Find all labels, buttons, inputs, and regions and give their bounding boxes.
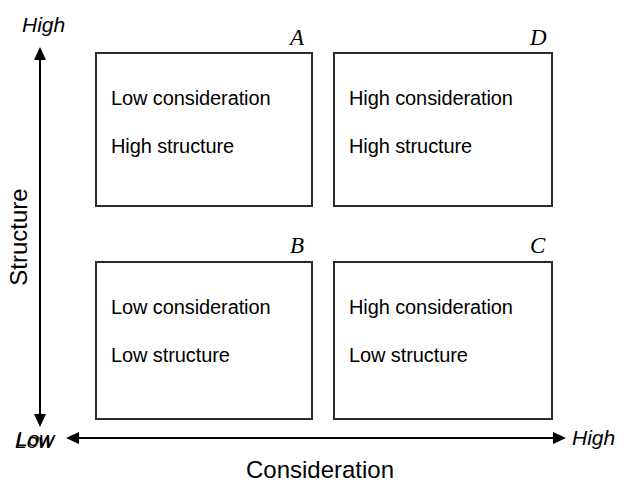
y-axis-high-label: High [22,14,65,35]
y-axis-title: Structure [7,172,31,302]
quadrant-c-line-2: Low structure [349,345,468,365]
diagram-canvas: High Low Structure Low High Consideratio… [0,0,636,489]
quadrant-b-line-1: Low consideration [111,297,271,317]
quadrant-d-line-1: High consideration [349,88,513,108]
quadrant-letter-d: D [530,26,547,49]
quadrant-d-line-2: High structure [349,136,472,156]
quadrant-a-line-2: High structure [111,136,234,156]
quadrant-a-line-1: Low consideration [111,88,271,108]
y-axis-down-arrowhead [34,414,46,427]
quadrant-letter-c: C [530,234,545,257]
x-axis-high-label: High [572,427,615,448]
quadrant-box-d[interactable]: High consideration High structure [333,52,553,207]
quadrant-letter-b: B [290,234,304,257]
quadrant-b-line-2: Low structure [111,345,230,365]
quadrant-c-line-1: High consideration [349,297,513,317]
x-axis-right-arrowhead [553,432,566,444]
x-axis-title: Consideration [205,458,435,482]
y-axis-line [39,56,41,419]
x-axis-low-label: Low [16,428,55,449]
quadrant-box-c[interactable]: High consideration Low structure [333,261,553,420]
quadrant-box-a[interactable]: Low consideration High structure [95,52,313,207]
quadrant-box-b[interactable]: Low consideration Low structure [95,261,313,420]
quadrant-letter-a: A [290,26,304,49]
x-axis-line [78,437,557,439]
